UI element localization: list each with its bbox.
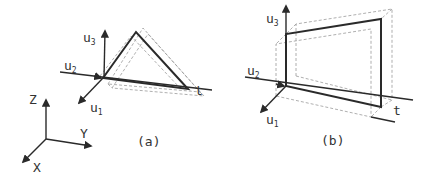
u2-t-axis-line bbox=[60, 72, 212, 90]
x-axis-arrow-icon bbox=[23, 139, 46, 162]
label-x: X bbox=[33, 160, 41, 175]
t-lower-line-b bbox=[371, 117, 395, 122]
caption-a: (a) bbox=[137, 134, 160, 149]
triangle-shape bbox=[103, 32, 188, 89]
caption-b: (b) bbox=[321, 133, 344, 148]
label-y: Y bbox=[80, 126, 88, 141]
world-frame: Z Y X bbox=[23, 92, 91, 175]
label-z: Z bbox=[29, 92, 37, 107]
u1-arrow-icon-b bbox=[261, 86, 286, 112]
label-u2-b: u2 bbox=[247, 63, 260, 80]
u3-arrow-icon bbox=[104, 31, 105, 78]
label-u3-b: u3 bbox=[266, 11, 279, 28]
u2-arrow-icon-b bbox=[276, 84, 284, 86]
dashed-trapezoid-copies bbox=[276, 9, 392, 117]
label-u1-a: u1 bbox=[90, 100, 103, 117]
figure-canvas: u3 u2 u1 t (a) Z Y X bbox=[0, 0, 436, 181]
label-t-b: t bbox=[393, 103, 401, 118]
label-u3-a: u3 bbox=[83, 30, 96, 47]
label-t-a: t bbox=[195, 83, 203, 98]
label-u1-b: u1 bbox=[266, 112, 279, 129]
u2-t-axis-line-b bbox=[245, 77, 413, 100]
label-u2-a: u2 bbox=[64, 58, 77, 75]
panel-b: u3 u2 u1 t (b) bbox=[245, 6, 413, 148]
